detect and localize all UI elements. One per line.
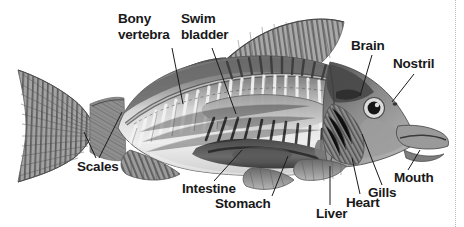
page-edge-dotted-rule <box>455 0 456 227</box>
label-swim-bladder-line2: bladder <box>181 27 228 42</box>
label-brain: Brain <box>351 38 385 53</box>
pectoral-fin <box>294 159 346 181</box>
label-stomach: Stomach <box>215 196 271 211</box>
label-bony-vertebra-line2: vertebra <box>118 27 170 42</box>
leader-nostril <box>392 74 414 102</box>
label-mouth: Mouth <box>394 170 433 185</box>
label-intestine: Intestine <box>182 181 236 196</box>
label-scales: Scales <box>77 159 119 174</box>
label-bony-vertebra-line1: Bony <box>118 11 151 26</box>
label-swim-bladder: Swim bladder <box>181 11 243 42</box>
label-nostril: Nostril <box>393 56 434 71</box>
figure-canvas: Bony vertebra Swim bladder Brain Nostril… <box>0 0 464 227</box>
label-liver: Liver <box>316 206 347 221</box>
label-swim-bladder-line1: Swim <box>181 11 215 26</box>
label-bony-vertebra: Bony vertebra <box>118 11 182 42</box>
label-gills: Gills <box>368 185 396 200</box>
